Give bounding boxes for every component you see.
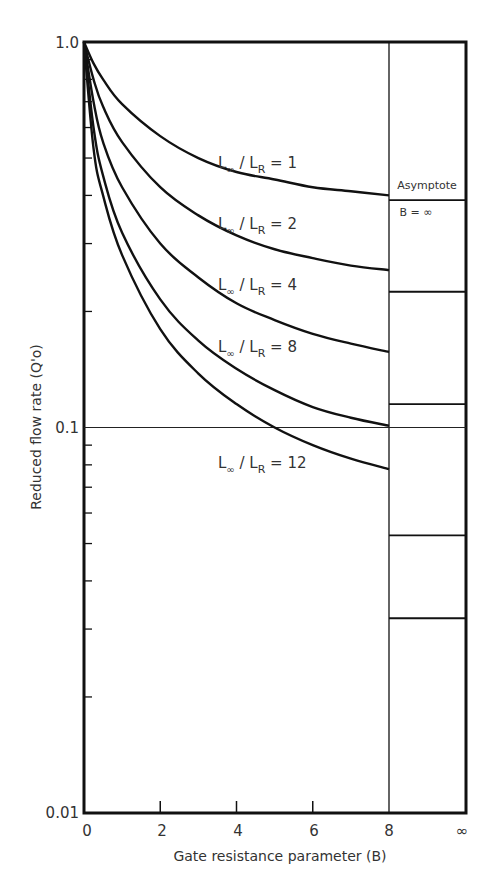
curves (84, 42, 389, 469)
y-tick-label-1: 1.0 (55, 34, 79, 52)
curve-ratio-8 (84, 42, 389, 426)
curve-label-ratio-4: L∞ / LR = 4 (218, 276, 297, 298)
x-axis-ticks (160, 801, 313, 813)
curve-ratio-4 (84, 42, 389, 352)
x-tick-label-6: 6 (309, 822, 319, 840)
flow-rate-chart: L∞ / LR = 1L∞ / LR = 2L∞ / LR = 4L∞ / LR… (0, 0, 495, 895)
y-tick-label-0.1: 0.1 (55, 419, 79, 437)
curve-label-ratio-12: L∞ / LR = 12 (218, 454, 307, 476)
x-tick-label-0: 0 (82, 822, 92, 840)
curve-ratio-12 (84, 42, 389, 469)
curve-label-ratio-2: L∞ / LR = 2 (218, 215, 297, 237)
x-tick-label-infinity: ∞ (456, 822, 469, 840)
x-tick-label-2: 2 (157, 822, 167, 840)
curve-label-ratio-8: L∞ / LR = 8 (218, 338, 297, 360)
y-tick-label-0.01: 0.01 (46, 804, 79, 822)
curve-ratio-1 (84, 42, 389, 195)
asymptote-label: Asymptote (397, 179, 457, 192)
x-tick-label-8: 8 (384, 822, 394, 840)
asymptote-b-infinity-label: B = ∞ (400, 206, 433, 219)
x-tick-label-4: 4 (233, 822, 243, 840)
curve-label-ratio-1: L∞ / LR = 1 (218, 154, 297, 176)
y-axis-title: Reduced flow rate (Q'o) (28, 344, 44, 510)
asymptote-lines (389, 200, 466, 618)
x-axis-title: Gate resistance parameter (B) (173, 848, 386, 864)
